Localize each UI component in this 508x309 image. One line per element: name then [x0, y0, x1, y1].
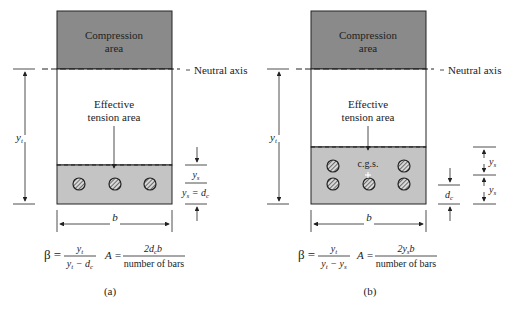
A-denominator: number of bars	[376, 258, 437, 269]
rebar-icon	[327, 178, 339, 190]
b-label: b	[366, 211, 372, 223]
rebar-icon	[398, 178, 410, 190]
dc-label: dc	[445, 189, 454, 202]
beta-denominator: yt − ys	[320, 258, 347, 271]
A-numerator: 2dcb	[144, 243, 162, 256]
A-symbol: A =	[104, 249, 122, 261]
formula-beta-a: β = yt yt − dc	[44, 243, 96, 271]
cgs-label: c.g.s.	[358, 158, 379, 169]
beta-numerator: yt	[330, 243, 338, 256]
yt-label: yt	[15, 131, 24, 145]
panel-a: Compression area Neutral axis Effective …	[13, 11, 247, 298]
formula-beta-b: β = yt yt − ys	[298, 243, 350, 271]
ys1-label: ys	[488, 156, 496, 169]
beta-symbol: β =	[298, 247, 315, 262]
neutral-axis-label: Neutral axis	[194, 64, 247, 76]
yt-label: yt	[269, 131, 278, 145]
rebar-icon	[144, 178, 156, 190]
A-numerator: 2ysb	[397, 243, 414, 256]
formula-A-b: A = 2ysb number of bars	[356, 243, 437, 269]
effective-label-line2: tension area	[342, 111, 395, 123]
compression-label-line2: area	[105, 42, 123, 54]
compression-label-line1: Compression	[339, 29, 398, 41]
rebar-icon	[109, 178, 121, 190]
beta-numerator: yt	[76, 243, 84, 256]
rebar-icon	[398, 160, 410, 172]
figure-canvas: Compression area Neutral axis Effective …	[0, 0, 508, 309]
beta-denominator: yt − dc	[66, 258, 94, 271]
formula-A-a: A = 2dcb number of bars	[104, 243, 185, 269]
compression-label-line1: Compression	[85, 29, 144, 41]
b-label: b	[112, 211, 118, 223]
caption-b: (b)	[364, 285, 377, 298]
rebar-icon	[73, 178, 85, 190]
A-denominator: number of bars	[124, 258, 185, 269]
effective-label-line1: Effective	[94, 98, 134, 110]
A-symbol: A =	[356, 249, 374, 261]
rebar-icon	[327, 160, 339, 172]
beta-symbol: β =	[44, 247, 61, 262]
neutral-axis-label: Neutral axis	[448, 64, 501, 76]
ys2-label: ys	[488, 184, 496, 197]
effective-label-line1: Effective	[348, 98, 388, 110]
compression-label-line2: area	[359, 42, 377, 54]
panel-b: Compression area Neutral axis Effective …	[267, 11, 501, 298]
effective-label-line2: tension area	[88, 111, 141, 123]
ys-equals-dc-label: ys = dc	[181, 187, 210, 200]
rebar-icon	[363, 178, 375, 190]
caption-a: (a)	[104, 285, 117, 298]
ys-label-top: ys	[191, 169, 199, 182]
